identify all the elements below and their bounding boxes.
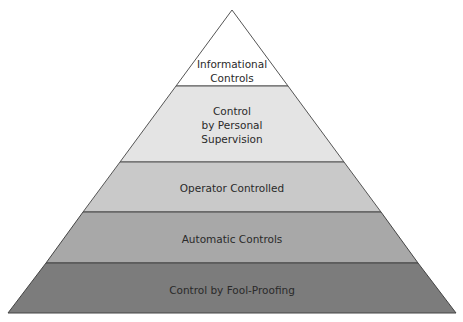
label-line: by Personal [201, 118, 262, 132]
level-label-informational-controls: Informational Controls [197, 57, 267, 85]
label-line: Control by Fool-Proofing [169, 283, 295, 297]
label-line: Supervision [201, 132, 262, 146]
label-line: Controls [197, 71, 267, 85]
label-line: Operator Controlled [180, 181, 284, 195]
level-label-fool-proofing: Control by Fool-Proofing [169, 283, 295, 297]
control-pyramid [0, 0, 463, 322]
label-line: Informational [197, 57, 267, 71]
label-line: Control [201, 104, 262, 118]
level-label-automatic-controls: Automatic Controls [182, 232, 283, 246]
label-line: Automatic Controls [182, 232, 283, 246]
level-label-operator-controlled: Operator Controlled [180, 181, 284, 195]
level-label-personal-supervision: Control by Personal Supervision [201, 104, 262, 146]
